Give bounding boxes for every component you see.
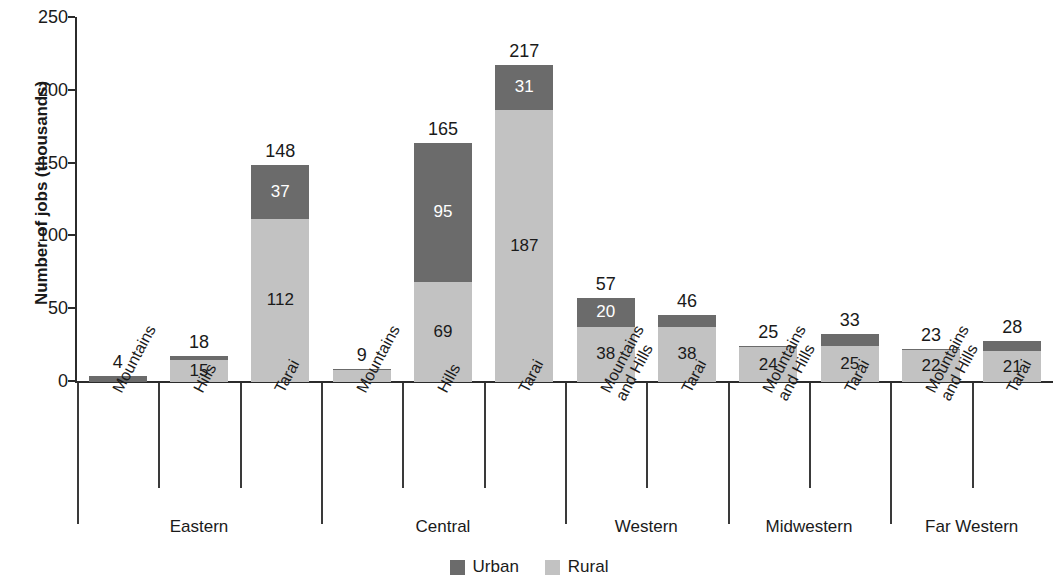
bar-separator [484,383,486,488]
legend-label: Urban [473,557,519,577]
bar-separator [809,383,811,488]
bar-segment-value-urban: 95 [414,203,472,220]
bar-total-label: 148 [251,142,309,160]
y-axis-tick-label: 200 [12,81,68,99]
y-axis-tick-label: 0 [12,372,68,390]
bar-total-label: 165 [414,120,472,138]
chart-canvas: Number of jobs (thousands) 0501001502002… [0,0,1058,584]
group-separator [321,383,323,524]
bar-segment-value-rural: 69 [414,323,472,340]
bar-total-label: 217 [495,42,553,60]
bar-stack[interactable]: 11237 [251,165,309,382]
bar-segment-value-urban: 31 [495,78,553,95]
bar-segment-urban[interactable]: 20 [577,298,635,327]
y-axis-tick-mark [68,16,75,18]
group-separator [77,383,79,524]
bar-separator [158,383,160,488]
bar-total-label: 28 [983,318,1041,336]
y-axis-tick-mark [68,380,75,382]
bar-segment-value-rural: 112 [251,291,309,308]
bar-total-label: 18 [170,333,228,351]
bar-segment-urban[interactable]: 95 [414,143,472,281]
bar-separator [240,383,242,488]
legend-swatch-urban [450,560,465,575]
bar-segment-value-urban: 37 [251,183,309,200]
bar-segment-urban[interactable] [983,341,1041,351]
bar-total-label: 57 [577,275,635,293]
x-axis-group-label: Western [565,518,728,535]
legend-item[interactable]: Rural [545,557,609,577]
bar-total-label: 46 [658,292,716,310]
bar-segment-urban[interactable] [658,315,716,327]
plot-area: 4151811237148969951651873121738205738462… [77,17,1053,382]
y-axis-tick-label: 150 [12,154,68,172]
bar-separator [646,383,648,488]
y-axis-tick-label: 250 [12,8,68,26]
bar-segment-rural[interactable]: 187 [495,110,553,382]
bar-segment-urban[interactable]: 31 [495,65,553,110]
x-axis-group-label: Eastern [77,518,321,535]
bar-segment-urban[interactable]: 37 [251,165,309,219]
bar-separator [402,383,404,488]
y-axis-tick-label: 100 [12,226,68,244]
bar-stack[interactable]: 18731 [495,65,553,382]
y-axis-tick-mark [68,162,75,164]
group-separator [890,383,892,524]
bar-segment-value-rural: 38 [658,345,716,362]
bar-segment-value-rural: 187 [495,237,553,254]
legend-swatch-rural [545,560,560,575]
y-axis-tick-mark [68,234,75,236]
legend-label: Rural [568,557,609,577]
bar-separator [972,383,974,488]
y-axis-ticks: 050100150200250 [0,0,68,584]
y-axis-tick-mark [68,307,75,309]
bar-segment-urban[interactable] [821,334,879,346]
chart-legend: UrbanRural [0,557,1058,577]
bar-total-label: 33 [821,311,879,329]
group-separator [565,383,567,524]
y-axis-tick-mark [68,89,75,91]
bar-segment-value-urban: 20 [577,303,635,320]
legend-item[interactable]: Urban [450,557,519,577]
bar-segment-rural[interactable]: 112 [251,219,309,382]
bar-segment-urban[interactable] [170,356,228,360]
x-axis-group-label: Central [321,518,565,535]
x-axis-group-label: Midwestern [728,518,891,535]
y-axis-tick-label: 50 [12,299,68,317]
bar-segment-rural[interactable]: 69 [414,282,472,382]
bar-stack[interactable]: 6995 [414,143,472,382]
x-axis-group-label: Far Western [890,518,1053,535]
group-separator [728,383,730,524]
